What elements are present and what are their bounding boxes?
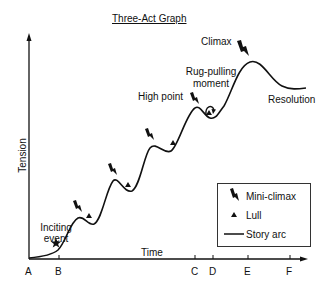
inciting-event-label-line1: Inciting [36, 222, 76, 233]
x-tick-c: C [191, 266, 198, 277]
lull-icon [224, 207, 244, 223]
climax-mini-climax-icon [237, 40, 249, 56]
x-axis-label: Time [141, 247, 163, 258]
climax-label: Climax [201, 36, 232, 47]
mini-climax-icon [145, 128, 154, 140]
legend-item-mini-climax: Mini-climax [218, 188, 310, 204]
inciting-event-label-line2: event [36, 233, 76, 244]
story-arc-line-icon [224, 226, 244, 242]
high-point-mini-climax-icon [190, 92, 199, 104]
lull-icon [86, 213, 92, 218]
legend-item-story-arc: Story arc [218, 226, 310, 242]
legend-item-lull: Lull [218, 207, 310, 223]
x-axis [29, 255, 308, 262]
y-axis-label: Tension [17, 136, 28, 176]
lull-icon [170, 140, 176, 145]
legend: Mini-climax Lull Story arc [217, 183, 311, 247]
high-point-label: High point [138, 91, 183, 102]
lull-icon [125, 182, 131, 187]
legend-label: Lull [246, 210, 262, 221]
rug-pulling-label-line2: moment [183, 78, 239, 89]
x-tick-e: E [244, 266, 251, 277]
mini-climax-icon [224, 188, 244, 204]
x-tick-f: F [286, 266, 292, 277]
resolution-label: Resolution [268, 94, 315, 105]
mini-climax-icon [108, 163, 117, 175]
legend-label: Mini-climax [246, 191, 296, 202]
rug-pulling-label-line1: Rug-pulling [183, 66, 239, 77]
lull-icon [206, 110, 212, 115]
x-tick-a: A [25, 266, 32, 277]
x-tick-b: B [55, 266, 62, 277]
graph-title: Three-Act Graph [112, 13, 186, 24]
mini-climax-icon [73, 200, 82, 212]
legend-label: Story arc [246, 229, 286, 240]
x-tick-d: D [209, 266, 216, 277]
